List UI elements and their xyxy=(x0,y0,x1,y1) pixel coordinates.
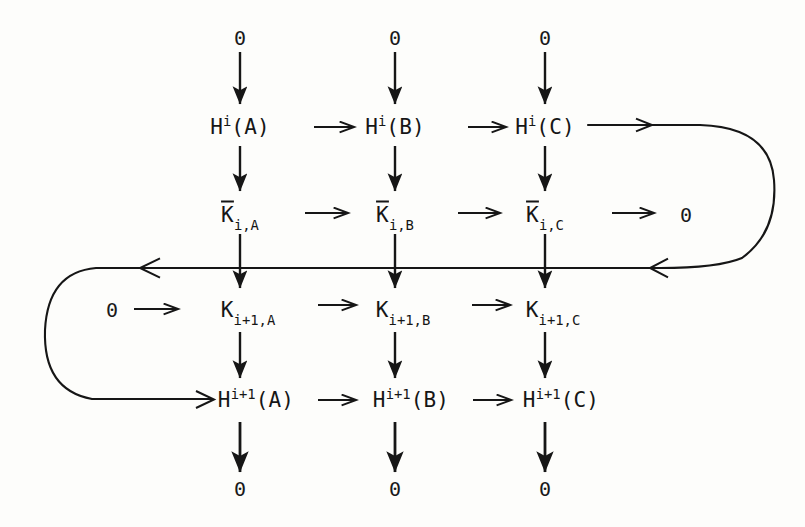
arrow-h-ip1-to-zero xyxy=(240,422,545,472)
node-kbar-i-b: Ki,B xyxy=(376,205,414,226)
node-k-ip1-b: Ki+1,B xyxy=(376,300,431,321)
snake-left-arrowhead xyxy=(196,391,214,408)
node-h-i-b-sup: i xyxy=(378,113,386,129)
node-h-i-a: Hi(A) xyxy=(210,117,270,138)
node-kbar-i-c-sub: i,C xyxy=(539,217,564,233)
node-k-ip1-a-base: K xyxy=(221,298,234,322)
zero-top-c: 0 xyxy=(539,28,551,48)
node-h-i-c-sup: i xyxy=(528,113,536,129)
node-h-i-c: Hi(C) xyxy=(515,117,575,138)
node-h-i-a-base: H xyxy=(210,115,223,139)
node-h-ip1-c: Hi+1(C) xyxy=(523,390,599,411)
snake-right-arrowhead xyxy=(636,119,652,132)
node-h-i-b-base: H xyxy=(365,115,378,139)
arrow-kbar-to-k xyxy=(240,234,545,288)
zero-bottom-b: 0 xyxy=(389,479,401,499)
node-h-ip1-c-base: H xyxy=(523,388,536,412)
node-h-ip1-b: Hi+1(B) xyxy=(373,390,449,411)
zero-left-mid: 0 xyxy=(106,300,118,320)
zero-top-b: 0 xyxy=(389,28,401,48)
node-kbar-i-a-base: K xyxy=(221,203,234,227)
node-h-ip1-b-sup: i+1 xyxy=(386,386,411,402)
node-kbar-i-b-sub: i,B xyxy=(389,217,414,233)
snake-horizontal-arrowhead xyxy=(140,258,160,277)
node-kbar-i-a: Ki,A xyxy=(221,205,259,226)
node-h-ip1-a-base: H xyxy=(218,388,231,412)
arrow-h-i-to-kbar xyxy=(240,146,545,191)
node-k-ip1-a: Ki+1,A xyxy=(221,300,276,321)
node-h-ip1-c-sup: i+1 xyxy=(536,386,561,402)
node-h-ip1-a-sup: i+1 xyxy=(231,386,256,402)
node-h-i-c-base: H xyxy=(515,115,528,139)
arrow-row-k xyxy=(134,305,510,309)
snake-right-turn-path xyxy=(588,125,774,268)
node-k-ip1-c-base: K xyxy=(526,298,539,322)
node-k-ip1-a-sub: i+1,A xyxy=(234,312,276,328)
node-h-i-b-paren: (B) xyxy=(386,115,425,139)
node-h-i-c-paren: (C) xyxy=(536,115,575,139)
zero-bottom-c: 0 xyxy=(539,479,551,499)
node-kbar-i-c: Ki,C xyxy=(526,205,564,226)
diagram-canvas: 0 0 0 Hi(A) Hi(B) Hi(C) Ki,A Ki,B Ki,C 0… xyxy=(0,0,805,527)
node-h-ip1-a-paren: (A) xyxy=(256,388,295,412)
diagram-arrows-layer xyxy=(0,0,805,527)
node-h-ip1-c-paren: (C) xyxy=(561,388,600,412)
node-h-i-b: Hi(B) xyxy=(365,117,425,138)
node-kbar-i-b-base: K xyxy=(376,203,389,227)
arrow-k-to-h-ip1 xyxy=(240,332,545,378)
node-kbar-i-c-base: K xyxy=(526,203,539,227)
node-k-ip1-b-sub: i+1,B xyxy=(389,312,431,328)
zero-top-a: 0 xyxy=(234,28,246,48)
node-k-ip1-c-sub: i+1,C xyxy=(539,312,581,328)
snake-left-turn-path xyxy=(45,268,212,399)
zero-right-mid: 0 xyxy=(680,205,692,225)
node-h-ip1-b-paren: (B) xyxy=(411,388,450,412)
node-kbar-i-a-sub: i,A xyxy=(234,217,259,233)
node-h-ip1-b-base: H xyxy=(373,388,386,412)
node-h-i-a-paren: (A) xyxy=(231,115,270,139)
node-h-ip1-a: Hi+1(A) xyxy=(218,390,294,411)
node-k-ip1-b-base: K xyxy=(376,298,389,322)
node-h-i-a-sup: i xyxy=(223,113,231,129)
zero-bottom-a: 0 xyxy=(234,479,246,499)
arrow-zero-to-h-i xyxy=(240,52,545,104)
snake-horizontal-arrowhead-right xyxy=(650,259,668,278)
node-k-ip1-c: Ki+1,C xyxy=(526,300,581,321)
